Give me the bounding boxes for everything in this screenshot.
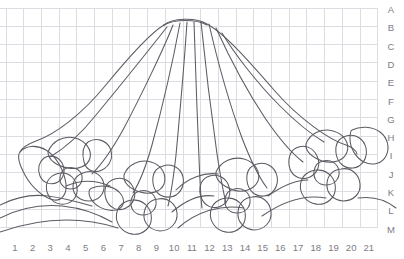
column-label-20: 20 [342, 243, 360, 253]
graph-paper-grid [0, 8, 378, 228]
column-label-15: 15 [254, 243, 272, 253]
flower-center-left-petal-lower-left [116, 200, 151, 234]
flower-right-petal-top [306, 130, 348, 162]
row-label-D: D [384, 60, 398, 70]
row-label-J: J [384, 170, 398, 180]
row-label-M: M [384, 225, 398, 235]
column-label-16: 16 [271, 243, 289, 253]
column-label-10: 10 [165, 243, 183, 253]
column-label-6: 6 [94, 243, 112, 253]
column-label-5: 5 [77, 243, 95, 253]
column-label-17: 17 [289, 243, 307, 253]
flower-center-left-petal-right [153, 165, 184, 197]
flower-right-petal-right [336, 135, 367, 168]
row-label-E: E [384, 78, 398, 88]
leaf-far-right [350, 127, 388, 164]
row-label-C: C [384, 42, 398, 52]
pattern-artboard [0, 0, 404, 259]
row-label-I: I [384, 151, 398, 161]
column-label-4: 4 [59, 243, 77, 253]
column-label-1: 1 [6, 243, 24, 253]
column-label-9: 9 [147, 243, 165, 253]
row-label-L: L [384, 206, 398, 216]
column-label-12: 12 [201, 243, 219, 253]
column-label-11: 11 [183, 243, 201, 253]
row-label-G: G [384, 115, 398, 125]
fan-pleat-line-4 [168, 22, 187, 206]
fan-pleat-line-3 [133, 23, 180, 193]
flower-right-petal-lower-right [327, 169, 360, 201]
row-label-F: F [384, 97, 398, 107]
column-label-21: 21 [360, 243, 378, 253]
pattern-canvas: 123456789101112131415161718192021 ABCDEF… [0, 0, 404, 259]
column-label-19: 19 [324, 243, 342, 253]
fan-pleat-line-8 [216, 28, 303, 162]
column-label-8: 8 [130, 243, 148, 253]
fan-pleat-line-6 [201, 22, 226, 203]
row-label-H: H [384, 133, 398, 143]
row-label-A: A [384, 5, 398, 15]
row-label-K: K [384, 188, 398, 198]
flower-right-petal-lower-left [300, 170, 335, 204]
fan-body-outline [164, 19, 357, 154]
column-label-13: 13 [218, 243, 236, 253]
column-label-14: 14 [236, 243, 254, 253]
column-label-7: 7 [112, 243, 130, 253]
flower-left-center [60, 167, 82, 189]
vine-stem-left-lower [0, 206, 112, 222]
row-label-B: B [384, 23, 398, 33]
column-label-3: 3 [41, 243, 59, 253]
column-label-18: 18 [307, 243, 325, 253]
column-label-2: 2 [24, 243, 42, 253]
